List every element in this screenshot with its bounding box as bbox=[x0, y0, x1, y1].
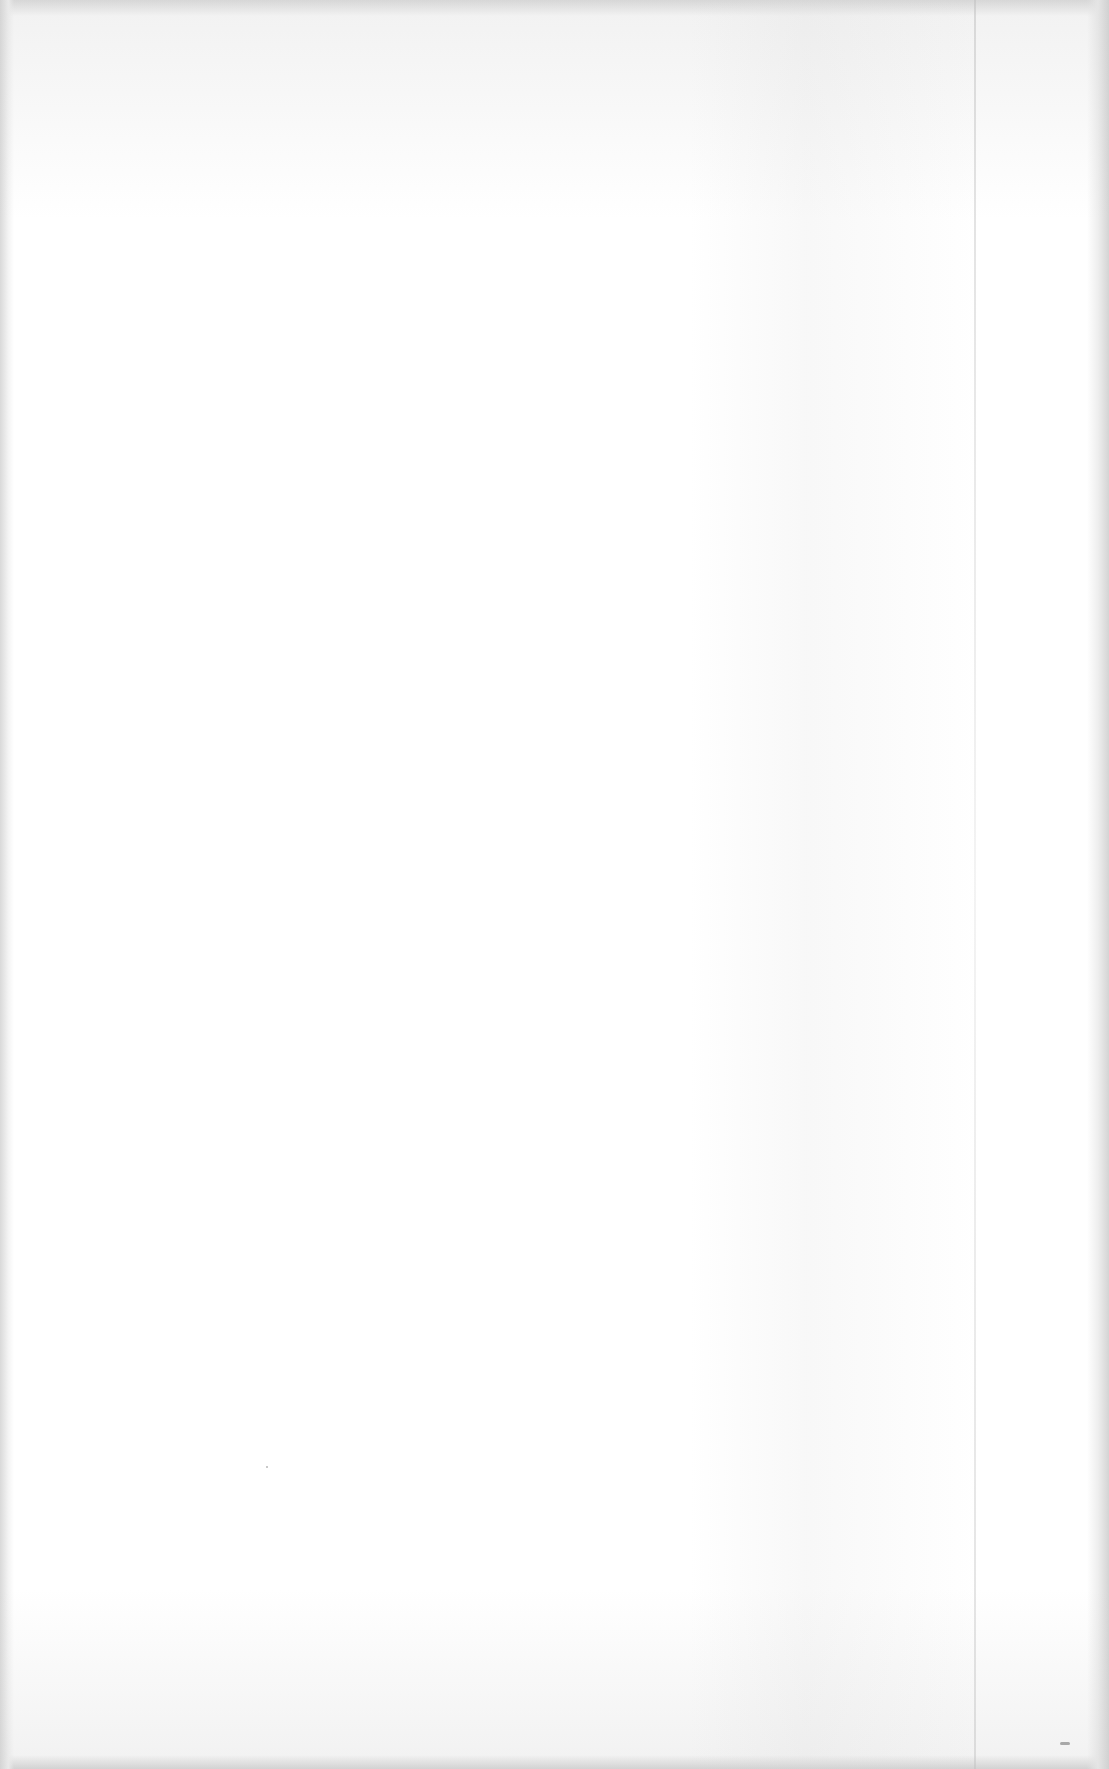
scan-noise-band bbox=[690, 0, 980, 1769]
blank-scanned-page bbox=[0, 0, 1109, 1769]
corner-smudge bbox=[1060, 1742, 1070, 1745]
scan-edge-right bbox=[1087, 0, 1109, 1769]
paper-crease-line bbox=[974, 0, 976, 1769]
dust-speck bbox=[266, 1466, 268, 1468]
scan-edge-left bbox=[0, 0, 14, 1769]
